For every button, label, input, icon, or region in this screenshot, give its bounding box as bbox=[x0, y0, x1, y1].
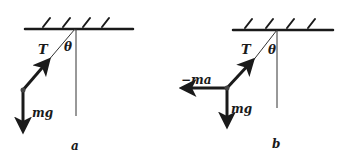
panel-a: T θ mg a bbox=[21, 18, 134, 153]
inertial-force-label-b: −ma bbox=[181, 73, 212, 87]
caption-a: a bbox=[71, 139, 79, 153]
panel-b: T θ −ma mg b bbox=[181, 19, 333, 151]
bob-b bbox=[225, 86, 230, 91]
angle-label-b: θ bbox=[268, 43, 276, 57]
tension-arrow-b bbox=[227, 61, 252, 88]
ceiling-b bbox=[233, 19, 333, 30]
tension-label-b: T bbox=[241, 42, 252, 57]
caption-b: b bbox=[272, 137, 280, 151]
gravity-label-a: mg bbox=[32, 106, 53, 120]
ceiling-a bbox=[25, 18, 133, 29]
bob-a bbox=[21, 88, 26, 93]
tension-arrow-a bbox=[23, 61, 48, 90]
pendulum-force-diagrams: T θ mg a T θ −ma mg b bbox=[0, 0, 349, 158]
angle-label-a: θ bbox=[64, 40, 72, 54]
gravity-label-b: mg bbox=[231, 102, 252, 116]
tension-label-a: T bbox=[38, 42, 49, 57]
